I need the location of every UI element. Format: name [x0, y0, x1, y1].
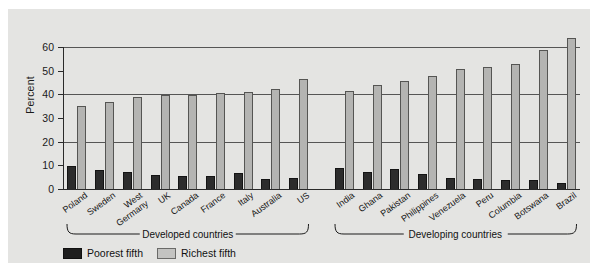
bar-rich-4	[188, 95, 197, 189]
y-axis-tick-label: 10	[32, 159, 54, 171]
bar-rich-9	[345, 91, 354, 189]
bar-poor-13	[446, 178, 455, 189]
y-axis-tick-label: 0	[32, 183, 54, 195]
legend-item-poorest-fifth[interactable]: Poorest fifth	[63, 247, 143, 259]
bar-rich-1	[105, 102, 114, 189]
figure-panel: Percent 0102030405060 PolandSwedenWest G…	[8, 9, 590, 263]
bar-poor-12	[418, 174, 427, 189]
x-axis-line	[63, 189, 580, 190]
bar-rich-17	[567, 38, 576, 189]
bar-poor-7	[261, 179, 270, 189]
legend-swatch-icon	[63, 248, 82, 259]
bar-poor-8	[289, 178, 298, 189]
bar-rich-8	[299, 79, 308, 189]
bar-poor-4	[178, 176, 187, 189]
bar-poor-6	[234, 173, 243, 189]
bar-rich-7	[271, 89, 280, 189]
y-axis-tick-label: 20	[32, 136, 54, 148]
legend-label: Richest fifth	[181, 247, 236, 259]
y-axis-tick-label: 40	[32, 88, 54, 100]
bar-poor-11	[390, 169, 399, 189]
bar-rich-13	[456, 69, 465, 189]
bar-poor-1	[95, 170, 104, 189]
bar-rich-16	[539, 50, 548, 189]
bar-rich-3	[161, 95, 170, 189]
bar-rich-14	[483, 67, 492, 189]
bar-poor-10	[363, 172, 372, 189]
group-label-1: Developing countries	[409, 229, 502, 240]
group-label-0: Developed countries	[142, 229, 233, 240]
bar-poor-17	[557, 183, 566, 189]
legend-label: Poorest fifth	[87, 247, 143, 259]
y-axis-tick-label: 50	[32, 65, 54, 77]
bar-poor-15	[501, 180, 510, 189]
bar-rich-0	[77, 106, 86, 189]
legend-swatch-icon	[157, 248, 176, 259]
plot-area: Percent 0102030405060 PolandSwedenWest G…	[8, 9, 590, 263]
y-axis-tick-label: 30	[32, 112, 54, 124]
bar-poor-5	[206, 176, 215, 189]
bar-rich-6	[244, 92, 253, 189]
bar-rich-11	[400, 81, 409, 189]
bar-rich-10	[373, 85, 382, 189]
bar-poor-2	[123, 172, 132, 189]
group-brace-layer: Developed countriesDeveloping countries	[8, 223, 590, 245]
bar-poor-14	[473, 179, 482, 189]
y-axis-tick-label: 60	[32, 41, 54, 53]
bar-poor-3	[151, 175, 160, 189]
bar-poor-16	[529, 180, 538, 189]
bar-rich-2	[133, 97, 142, 189]
bars-layer	[63, 47, 580, 189]
bar-rich-12	[428, 76, 437, 189]
chart-figure: Percent 0102030405060 PolandSwedenWest G…	[0, 0, 598, 275]
bar-rich-5	[216, 93, 225, 189]
bar-poor-0	[67, 166, 76, 189]
bar-rich-15	[511, 64, 520, 189]
bar-poor-9	[335, 168, 344, 189]
chart-legend: Poorest fifthRichest fifth	[63, 247, 236, 259]
legend-item-richest-fifth[interactable]: Richest fifth	[157, 247, 236, 259]
